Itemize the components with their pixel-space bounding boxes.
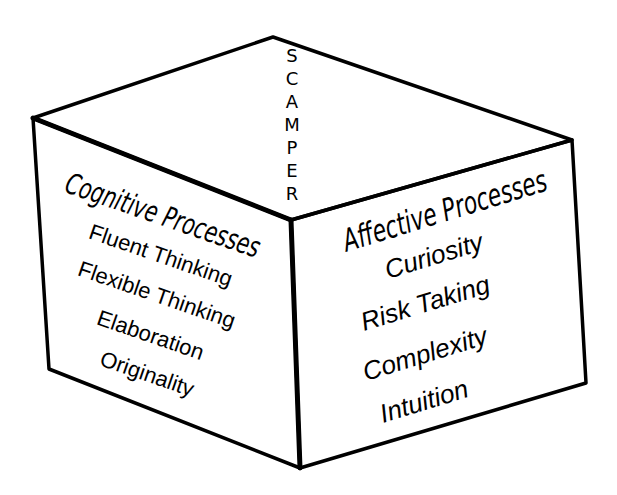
front-edge bbox=[291, 220, 300, 468]
scamper-letter-a: A bbox=[272, 90, 312, 113]
scamper-letter-e: E bbox=[272, 159, 312, 182]
scamper-letter-r: R bbox=[272, 182, 312, 205]
scamper-label: S C A M P E R bbox=[272, 44, 312, 205]
scamper-letter-p: P bbox=[272, 136, 312, 159]
scamper-letter-s: S bbox=[272, 44, 312, 67]
scamper-letter-m: M bbox=[272, 113, 312, 136]
scamper-letter-c: C bbox=[272, 67, 312, 90]
